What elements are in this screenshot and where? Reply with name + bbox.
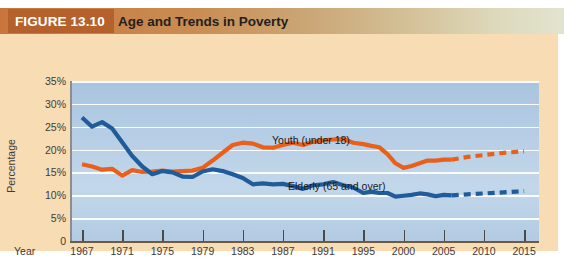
x-tick-label: 1975: [151, 245, 174, 257]
x-tick-mark: [122, 230, 124, 241]
plot-area: [72, 81, 539, 241]
series-label-youth: Youth (under 18): [272, 134, 350, 146]
x-tick-label: 1979: [191, 245, 214, 257]
x-tick-label: 1991: [311, 245, 334, 257]
x-tick-label: 1967: [70, 245, 93, 257]
x-tick-mark: [363, 230, 365, 241]
x-tick-mark: [484, 230, 486, 241]
series-path: [82, 139, 452, 176]
y-axis-ticks: 35% 30% 25% 20% 15% 10% 5% 0 Percentage: [0, 68, 66, 257]
series-lines: [72, 81, 539, 241]
x-tick-label: 1995: [352, 245, 375, 257]
x-tick-mark: [524, 230, 526, 241]
x-tick-label: 1983: [231, 245, 254, 257]
x-axis-title: Year: [14, 245, 35, 257]
x-tick-mark: [243, 230, 245, 241]
series-path: [452, 191, 524, 195]
figure-title: Age and Trends in Poverty: [118, 9, 288, 33]
x-tick-label: 2005: [432, 245, 455, 257]
y-axis-title: Percentage: [5, 128, 17, 204]
chart-panel: 35% 30% 25% 20% 15% 10% 5% 0 Percentage …: [0, 34, 558, 251]
x-tick-label: 2000: [392, 245, 415, 257]
series-path: [452, 151, 524, 159]
x-tick-label: 2015: [512, 245, 535, 257]
series-label-elderly: Elderly (65 and over): [288, 180, 385, 192]
x-tick-label: 2010: [472, 245, 495, 257]
x-tick-mark: [82, 230, 84, 241]
x-tick-mark: [444, 230, 446, 241]
figure-number-tag: FIGURE 13.10: [8, 9, 114, 33]
series-path: [82, 118, 452, 197]
x-tick-mark: [323, 230, 325, 241]
x-tick-mark: [404, 230, 406, 241]
x-axis-line: [70, 241, 539, 243]
y-tick-label: 30%: [4, 98, 66, 110]
x-tick-label: 1987: [271, 245, 294, 257]
y-tick-label: 35%: [4, 75, 66, 87]
x-tick-mark: [203, 230, 205, 241]
x-tick-label: 1971: [111, 245, 134, 257]
y-tick-label: 5%: [4, 212, 66, 224]
x-tick-mark: [162, 230, 164, 241]
figure-container: FIGURE 13.10 Age and Trends in Poverty 3…: [0, 0, 564, 257]
x-tick-mark: [283, 230, 285, 241]
